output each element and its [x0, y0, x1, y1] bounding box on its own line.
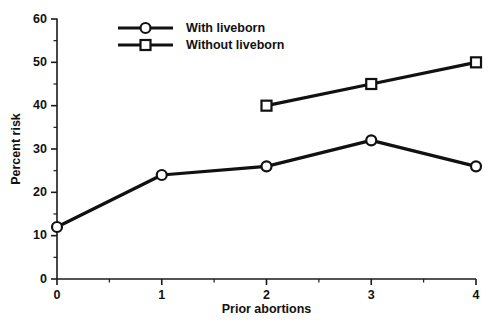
y-tick-label: 60 [33, 12, 47, 26]
axes-group: 010203040506001234 [33, 12, 479, 302]
legend-marker-circle [141, 23, 151, 33]
y-tick-label: 50 [33, 55, 47, 69]
chart-container: 010203040506001234Prior abortionsPercent… [0, 0, 496, 324]
data-point-circle [471, 161, 481, 171]
y-tick-label: 20 [33, 185, 47, 199]
data-point-square [471, 57, 481, 67]
legend-label: With liveborn [186, 21, 265, 35]
data-point-circle [52, 222, 62, 232]
legend-marker-square [141, 40, 151, 50]
x-tick-label: 4 [473, 288, 480, 302]
data-point-square [262, 101, 272, 111]
y-tick-label: 10 [33, 228, 47, 242]
x-tick-label: 0 [54, 288, 61, 302]
x-axis-title: Prior abortions [222, 302, 312, 316]
x-tick-label: 3 [368, 288, 375, 302]
legend-label: Without liveborn [186, 38, 285, 52]
x-tick-label: 1 [158, 288, 165, 302]
legend-item[interactable]: Without liveborn [118, 38, 285, 52]
series-1 [52, 135, 481, 232]
data-point-square [366, 79, 376, 89]
legend: With livebornWithout liveborn [118, 21, 285, 52]
y-tick-label: 40 [33, 98, 47, 112]
y-axis-title: Percent risk [9, 113, 23, 185]
data-point-circle [262, 161, 272, 171]
data-point-circle [157, 170, 167, 180]
y-tick-label: 30 [33, 142, 47, 156]
data-point-circle [366, 135, 376, 145]
series-line [57, 140, 476, 227]
series-2 [262, 57, 482, 110]
x-tick-label: 2 [263, 288, 270, 302]
y-tick-label: 0 [40, 272, 47, 286]
line-chart: 010203040506001234Prior abortionsPercent… [0, 0, 496, 324]
legend-item[interactable]: With liveborn [118, 21, 265, 35]
